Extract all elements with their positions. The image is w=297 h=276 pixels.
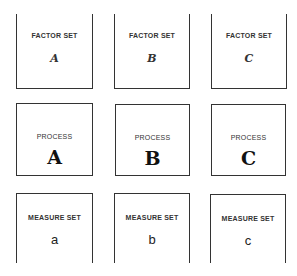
process-label: PROCESS [17, 133, 92, 140]
measure-set-label: MEASURE SET [115, 214, 189, 221]
factor-set-a-box: FACTOR SET A [16, 14, 93, 89]
process-label: PROCESS [116, 134, 189, 141]
measure-set-b-box: MEASURE SET b [114, 193, 190, 263]
process-b-box: PROCESS B [115, 104, 190, 176]
factor-set-b-box: FACTOR SET B [114, 14, 190, 89]
process-id: C [212, 147, 285, 169]
factor-set-c-box: FACTOR SET C [211, 14, 287, 89]
process-id: A [17, 146, 92, 168]
measure-set-label: MEASURE SET [211, 215, 285, 222]
measure-set-c-box: MEASURE SET c [210, 194, 286, 263]
process-label: PROCESS [212, 134, 285, 141]
factor-set-id: C [212, 52, 286, 65]
measure-set-id: b [115, 232, 189, 247]
process-id: B [116, 147, 189, 169]
measure-set-label: MEASURE SET [17, 214, 92, 221]
process-a-box: PROCESS A [16, 103, 93, 176]
measure-set-a-box: MEASURE SET a [16, 193, 93, 263]
factor-set-id: A [17, 52, 92, 65]
process-c-box: PROCESS C [211, 104, 286, 176]
factor-set-label: FACTOR SET [115, 32, 189, 39]
factor-set-id: B [115, 52, 189, 65]
factor-set-label: FACTOR SET [212, 32, 286, 39]
measure-set-id: c [211, 233, 285, 248]
measure-set-id: a [17, 232, 92, 247]
factor-set-label: FACTOR SET [17, 32, 92, 39]
